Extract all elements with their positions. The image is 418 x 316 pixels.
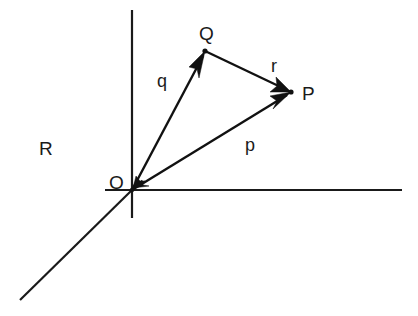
label-r: r [271,56,277,76]
label-R: R [39,138,53,159]
label-O: O [109,172,124,193]
point-Q [202,48,207,53]
point-O [130,188,134,192]
label-q: q [157,71,167,91]
vector-q-line [132,56,203,190]
vector-p-arrowhead-icon [270,92,291,109]
diagonal-axis [20,190,132,300]
vector-diagram: Q P O R q p r [0,0,418,316]
label-p: p [245,135,255,155]
vector-p-line [132,95,287,190]
vector-q-arrowhead-icon [189,51,205,78]
point-P [288,89,293,94]
label-P: P [302,83,315,104]
label-Q: Q [199,23,214,44]
